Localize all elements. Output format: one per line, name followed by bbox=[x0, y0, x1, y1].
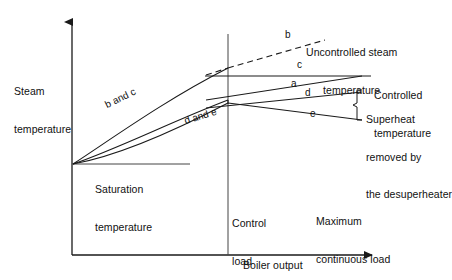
superheat-label-line3: the desuperheater bbox=[366, 188, 452, 201]
superheat-label-line2: removed by bbox=[366, 151, 452, 164]
curve-label-c: c bbox=[297, 59, 302, 70]
superheat-label-line1: Superheat bbox=[366, 113, 452, 126]
curve-label-d: d bbox=[305, 87, 311, 98]
y-axis-label-line1: Steam bbox=[14, 85, 71, 98]
curve-label-b: b bbox=[285, 29, 291, 40]
uncontrolled-label-line1: Uncontrolled steam bbox=[306, 46, 397, 59]
control-load-label: Control load bbox=[232, 192, 266, 280]
maximum-continuous-load-label-line2: continuous load bbox=[316, 253, 390, 266]
curve-label-a: a bbox=[291, 78, 297, 89]
y-axis-label: Steam temperature bbox=[14, 60, 71, 160]
saturation-temperature-label-line2: temperature bbox=[95, 221, 152, 234]
control-load-label-line1: Control bbox=[232, 217, 266, 230]
saturation-temperature-label-line1: Saturation bbox=[95, 183, 152, 196]
saturation-temperature-label: Saturation temperature bbox=[95, 158, 152, 258]
control-load-label-line2: load bbox=[232, 255, 266, 268]
superheat-removed-label: Superheat removed by the desuperheater bbox=[366, 88, 452, 226]
y-axis-label-line2: temperature bbox=[14, 123, 71, 136]
curve-label-e: e bbox=[310, 108, 316, 119]
